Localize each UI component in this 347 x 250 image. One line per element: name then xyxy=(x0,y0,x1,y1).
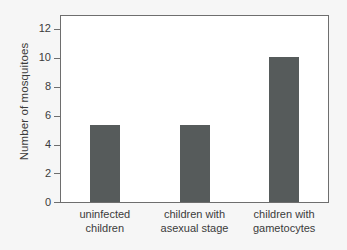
y-tick-mark xyxy=(54,173,60,174)
y-tick-mark xyxy=(54,145,60,146)
y-tick-label: 10 xyxy=(28,51,51,63)
y-tick-label: 0 xyxy=(28,196,51,208)
y-tick-label: 4 xyxy=(28,138,51,150)
category-label: children withgametocytes xyxy=(239,208,329,235)
category-label-line: children with xyxy=(150,208,240,222)
y-tick-mark xyxy=(54,87,60,88)
category-label: children withasexual stage xyxy=(150,208,240,235)
bar xyxy=(269,57,299,202)
y-tick-label: 2 xyxy=(28,167,51,179)
category-label-line: asexual stage xyxy=(150,222,240,236)
bar xyxy=(90,125,120,202)
y-tick-label: 8 xyxy=(28,80,51,92)
bar xyxy=(180,125,210,202)
category-label-line: children xyxy=(60,222,150,236)
category-label-line: uninfected xyxy=(60,208,150,222)
y-tick-label: 12 xyxy=(28,22,51,34)
y-tick-mark xyxy=(54,58,60,59)
y-tick-label: 6 xyxy=(28,109,51,121)
bar-chart: Number of mosquitoes 024681012 uninfecte… xyxy=(0,0,347,250)
y-tick-mark xyxy=(54,116,60,117)
category-label: uninfectedchildren xyxy=(60,208,150,235)
category-label-line: gametocytes xyxy=(239,222,329,236)
category-label-line: children with xyxy=(239,208,329,222)
y-tick-mark xyxy=(54,202,60,203)
y-tick-mark xyxy=(54,29,60,30)
